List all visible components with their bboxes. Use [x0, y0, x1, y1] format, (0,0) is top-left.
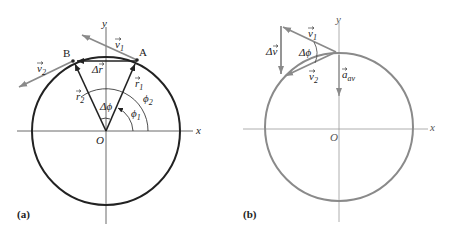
x-axis-label: x [195, 124, 201, 136]
panel-a: y x O A B v1 v2 r1 r2 Δr Δϕ ϕ1 ϕ2 (a) [17, 17, 201, 224]
dphi-arc [314, 42, 317, 63]
delta-r-label: Δr [91, 63, 103, 75]
panel-b-label: (b) [243, 208, 257, 221]
y-axis-label: y [335, 13, 341, 25]
delta-phi-label: Δϕ [99, 100, 112, 112]
circular-motion-diagram: y x O A B v1 v2 r1 r2 Δr Δϕ ϕ1 ϕ2 (a) [0, 0, 451, 234]
point-b-label: B [63, 47, 70, 59]
vector-accents-a [37, 38, 140, 93]
v2-vector [19, 61, 73, 87]
panel-a-label: (a) [17, 208, 30, 221]
origin-label: O [330, 131, 338, 143]
delta-v-label: Δv [265, 45, 277, 57]
y-axis-label: y [101, 17, 107, 29]
point-b-dot [71, 59, 75, 63]
x-axis-label: x [429, 121, 435, 133]
panel-b: y x O v1 v2 Δv aav Δϕ (b) [243, 13, 435, 222]
point-a-label: A [139, 46, 147, 58]
delta-phi-label: Δϕ [298, 46, 311, 58]
phi2-label: ϕ2 [143, 92, 153, 107]
dphi-arc [101, 118, 110, 119]
r1-label: r1 [135, 77, 143, 92]
r2-label: r2 [76, 90, 84, 105]
a-av-label: aav [342, 68, 356, 83]
point-a-dot [135, 58, 139, 62]
phi1-label: ϕ1 [131, 107, 141, 122]
origin-label: O [96, 134, 104, 146]
